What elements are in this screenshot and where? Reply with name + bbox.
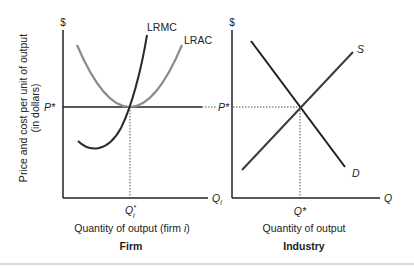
firm-x-axis-symbol-q: Q xyxy=(212,192,220,204)
firm-x-axis-symbol-sub: i xyxy=(220,199,222,206)
firm-equilibrium-quantity-label: Q*i xyxy=(125,204,136,219)
supply-label: S xyxy=(357,43,364,55)
firm-q-star-sup: * xyxy=(133,204,136,211)
industry-x-axis-symbol: Q xyxy=(384,192,392,204)
lrac-curve xyxy=(77,45,182,107)
firm-y-axis-dollar-symbol: $ xyxy=(60,17,66,28)
industry-y-axis-dollar-symbol: $ xyxy=(229,17,235,28)
lrmc-curve xyxy=(78,35,147,149)
industry-panel: $ P* S D Q Q* Quantity of output Industr… xyxy=(218,17,392,252)
long-run-competitive-equilibrium-diagram: Price and cost per unit of output (in do… xyxy=(0,0,414,269)
demand-curve xyxy=(251,41,345,167)
firm-panel: Price and cost per unit of output (in do… xyxy=(17,17,222,252)
industry-price-label: P* xyxy=(218,101,230,113)
industry-panel-title: Industry xyxy=(283,240,325,252)
firm-panel-title: Firm xyxy=(120,240,143,252)
industry-equilibrium-quantity-label: Q* xyxy=(294,205,307,217)
lrac-label: LRAC xyxy=(184,34,212,46)
lrmc-label: LRMC xyxy=(147,21,177,33)
firm-x-axis-label-suffix: ) xyxy=(186,222,190,234)
firm-y-axis-label-line1: Price and cost per unit of output xyxy=(17,34,29,182)
firm-x-axis-label-prefix: Quantity of output (firm xyxy=(74,222,184,234)
demand-label: D xyxy=(352,167,360,179)
firm-y-axis-label-line2: (in dollars) xyxy=(29,83,41,132)
firm-y-axis-label: Price and cost per unit of output (in do… xyxy=(17,34,41,182)
firm-x-axis-symbol: Qi xyxy=(212,192,222,206)
supply-curve xyxy=(242,52,353,170)
firm-price-label: P* xyxy=(44,101,56,113)
firm-q-star-sub: i xyxy=(133,212,135,219)
industry-x-axis-label: Quantity of output xyxy=(263,222,346,234)
firm-x-axis-label: Quantity of output (firm i) xyxy=(74,222,190,234)
